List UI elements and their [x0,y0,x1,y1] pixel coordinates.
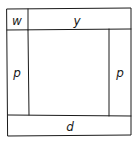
left-column-divider [28,30,29,115]
bottom-strip-divider [8,115,131,116]
region-label-d: d [66,121,74,133]
region-label-p-right: p [116,67,124,79]
outer-border [7,8,131,136]
region-label-p-left: p [13,67,21,79]
top-strip-divider [7,29,131,30]
frame-diagram: w y p p d [0,0,136,141]
region-label-w: w [12,15,22,27]
region-label-y: y [73,15,80,27]
